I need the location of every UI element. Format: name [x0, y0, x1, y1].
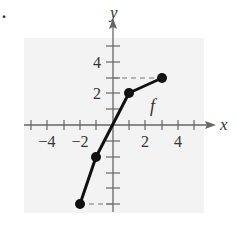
x-tick-label-4: 4	[174, 133, 182, 150]
point-1-2	[124, 88, 134, 98]
point-neg1-neg2	[91, 152, 101, 162]
y-tick-label-2: 2	[93, 85, 101, 102]
x-tick-label-neg2: −2	[71, 133, 88, 150]
x-tick-label-neg4: −4	[38, 133, 55, 150]
x-axis-label: x	[219, 115, 228, 134]
y-tick-label-4: 4	[93, 54, 101, 71]
chart-svg: y x f −4 −2 2 4 4 2	[0, 0, 237, 227]
x-tick-label-2: 2	[141, 133, 149, 150]
point-3-3	[157, 73, 167, 83]
y-axis-label: y	[108, 3, 118, 22]
function-label: f	[150, 96, 158, 116]
point-neg2-neg5	[75, 199, 85, 209]
graph-figure: .	[0, 0, 237, 227]
